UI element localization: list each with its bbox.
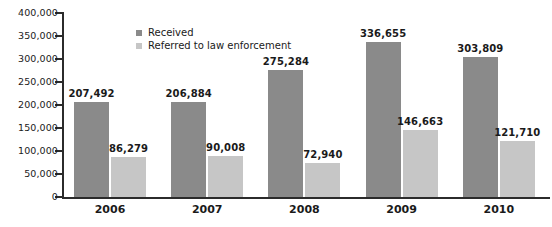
y-tick-label: 50,000 bbox=[2, 168, 58, 179]
referred-swatch-icon bbox=[136, 43, 142, 49]
y-tick-label: 350,000 bbox=[2, 30, 58, 41]
legend-item-referred: Referred to law enforcement bbox=[136, 39, 291, 52]
bar-value-label: 72,940 bbox=[293, 149, 352, 160]
x-tick-label-2007: 2007 bbox=[161, 203, 253, 216]
y-tick-label: 200,000 bbox=[2, 99, 58, 110]
y-tick-label: 0 bbox=[2, 191, 58, 202]
bar-value-label: 207,492 bbox=[62, 88, 121, 99]
bar-value-label: 90,008 bbox=[196, 142, 255, 153]
bar-value-label: 86,279 bbox=[99, 143, 158, 154]
x-tick-label-2006: 2006 bbox=[64, 203, 156, 216]
x-axis-line bbox=[62, 197, 550, 199]
bar-value-label: 146,663 bbox=[391, 116, 450, 127]
bar-received-2008 bbox=[268, 70, 303, 197]
bar-referred-2009 bbox=[403, 130, 438, 197]
bar-value-label: 206,884 bbox=[159, 88, 218, 99]
x-tick-label-2010: 2010 bbox=[453, 203, 545, 216]
chart-legend: Received Referred to law enforcement bbox=[136, 26, 291, 52]
legend-label-received: Received bbox=[148, 27, 194, 38]
bar-referred-2006 bbox=[111, 157, 146, 197]
bar-value-label: 336,655 bbox=[354, 28, 413, 39]
received-swatch-icon bbox=[136, 30, 142, 36]
bar-value-label: 275,284 bbox=[256, 56, 315, 67]
bar-referred-2008 bbox=[305, 163, 340, 197]
y-tick-label: 400,000 bbox=[2, 7, 58, 18]
y-tick-label: 300,000 bbox=[2, 53, 58, 64]
x-tick-label-2008: 2008 bbox=[258, 203, 350, 216]
y-tick-label: 250,000 bbox=[2, 76, 58, 87]
bar-value-label: 121,710 bbox=[488, 127, 547, 138]
bar-referred-2010 bbox=[500, 141, 535, 197]
y-tick-label: 100,000 bbox=[2, 145, 58, 156]
bar-value-label: 303,809 bbox=[451, 43, 510, 54]
legend-label-referred: Referred to law enforcement bbox=[148, 40, 291, 51]
bar-chart: 050,000100,000150,000200,000250,000300,0… bbox=[0, 0, 552, 227]
y-tick-label: 150,000 bbox=[2, 122, 58, 133]
x-tick-label-2009: 2009 bbox=[356, 203, 448, 216]
bar-referred-2007 bbox=[208, 156, 243, 197]
legend-item-received: Received bbox=[136, 26, 291, 39]
